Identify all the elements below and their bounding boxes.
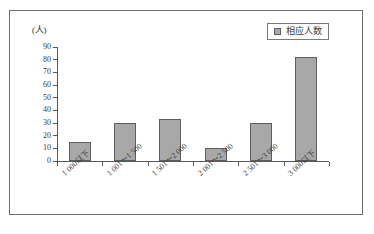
chart-frame: (人) 9080706050403020100 1 000以下1 001～1 5… [9, 10, 363, 215]
y-axis-tick-label: 60 [22, 81, 51, 89]
y-axis-tick-label: 20 [22, 132, 51, 140]
y-axis-tick-label: 10 [22, 144, 51, 152]
y-axis-tick-value: 30 [25, 119, 51, 127]
y-axis-tick [53, 97, 58, 98]
y-axis-line [57, 47, 58, 161]
x-axis-tick [238, 162, 239, 166]
x-axis-tick [57, 162, 58, 166]
y-axis-tick-value: 70 [25, 68, 51, 76]
bar [295, 57, 317, 161]
y-axis-tick-value: 0 [25, 157, 51, 165]
y-axis-tick-value: 20 [25, 132, 51, 140]
legend-label: 相应人数 [286, 27, 322, 36]
y-axis-tick-value: 80 [25, 56, 51, 64]
y-axis-tick [53, 135, 58, 136]
y-axis-tick [53, 59, 58, 60]
y-axis-tick [53, 148, 58, 149]
x-axis-tick [193, 162, 194, 166]
x-axis-tick [148, 162, 149, 166]
chart-legend: 相应人数 [267, 23, 329, 40]
x-axis-tick [329, 162, 330, 166]
y-axis-tick-value: 60 [25, 81, 51, 89]
y-axis-tick [53, 123, 58, 124]
x-axis-tick [284, 162, 285, 166]
y-axis-tick [53, 110, 58, 111]
y-axis-tick-label: 70 [22, 68, 51, 76]
y-axis-tick [53, 85, 58, 86]
y-axis-tick-label: 50 [22, 94, 51, 102]
y-axis-tick-label: 0 [22, 157, 51, 165]
x-axis-tick [102, 162, 103, 166]
y-axis-tick-label: 80 [22, 56, 51, 64]
y-axis-tick-value: 90 [25, 43, 51, 51]
y-axis-tick [53, 72, 58, 73]
x-axis-category-label: 2 001～2 500 [196, 142, 235, 178]
y-axis-tick [53, 47, 58, 48]
y-axis-tick-label: 40 [22, 106, 51, 114]
y-axis-tick-value: 40 [25, 106, 51, 114]
y-axis-tick-value: 10 [25, 144, 51, 152]
y-axis-tick-label: 90 [22, 43, 51, 51]
y-axis-tick-value: 50 [25, 94, 51, 102]
y-axis-tick-label: 30 [22, 119, 51, 127]
legend-swatch-icon [274, 28, 281, 35]
y-axis-unit-label: (人) [32, 25, 46, 35]
bar-chart-plot-area: (人) 9080706050403020100 1 000以下1 001～1 5… [10, 11, 364, 216]
